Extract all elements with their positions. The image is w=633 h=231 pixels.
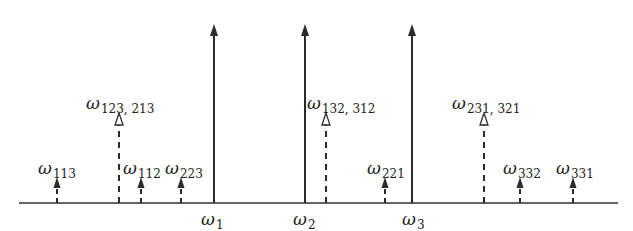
product-arrow-w123_213: [115, 113, 123, 203]
omega-symbol: ω: [556, 158, 570, 178]
label-w332: ω332: [503, 160, 541, 177]
label-w231_321: ω231, 321: [452, 95, 520, 112]
subscript: 3: [417, 218, 425, 231]
subscript: 332: [518, 167, 541, 181]
subscript: 221: [382, 167, 405, 181]
omega-symbol: ω: [86, 93, 100, 113]
spectrum-canvas: [0, 0, 633, 231]
label-w123_213: ω123, 213: [86, 95, 154, 112]
omega-symbol: ω: [293, 209, 307, 229]
product-arrow-w132_312: [322, 113, 330, 203]
label-w223: ω223: [165, 160, 203, 177]
spectrum-diagram: ω123, 213ω132, 312ω231, 321ω113ω112ω223ω…: [0, 0, 633, 231]
omega-symbol: ω: [307, 93, 321, 113]
single-product-arrows: [54, 177, 577, 203]
omega-symbol: ω: [165, 158, 179, 178]
fundamental-arrow-w2: [301, 24, 309, 203]
axis-label-w3: ω3: [402, 211, 425, 228]
subscript: 1: [216, 218, 224, 231]
label-w331: ω331: [556, 160, 594, 177]
subscript: 113: [53, 167, 76, 181]
axis-label-w1: ω1: [201, 211, 224, 228]
subscript: 132, 312: [322, 102, 375, 116]
label-w113: ω113: [38, 160, 76, 177]
label-w221: ω221: [367, 160, 405, 177]
omega-symbol: ω: [503, 158, 517, 178]
subscript: 331: [571, 167, 594, 181]
arrowhead-filled-icon: [210, 24, 218, 36]
subscript: 2: [308, 218, 316, 231]
omega-symbol: ω: [123, 158, 137, 178]
fundamental-arrow-w1: [210, 24, 218, 203]
omega-symbol: ω: [367, 158, 381, 178]
omega-symbol: ω: [201, 209, 215, 229]
label-w112: ω112: [123, 160, 161, 177]
arrowhead-filled-icon: [408, 24, 416, 36]
label-w132_312: ω132, 312: [307, 95, 375, 112]
subscript: 223: [180, 167, 203, 181]
arrowhead-filled-icon: [301, 24, 309, 36]
subscript: 123, 213: [101, 102, 154, 116]
product-arrow-w231_321: [480, 113, 488, 203]
omega-symbol: ω: [452, 93, 466, 113]
axis-label-w2: ω2: [293, 211, 316, 228]
subscript: 112: [138, 167, 161, 181]
omega-symbol: ω: [38, 158, 52, 178]
subscript: 231, 321: [467, 102, 520, 116]
fundamental-arrow-w3: [408, 24, 416, 203]
omega-symbol: ω: [402, 209, 416, 229]
